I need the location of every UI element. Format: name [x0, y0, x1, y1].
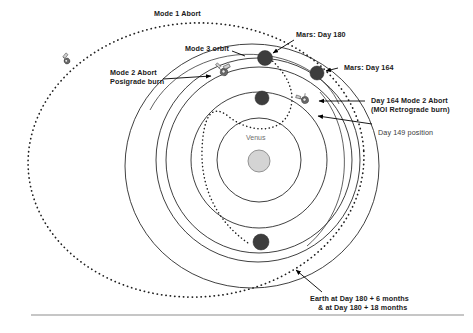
- label-mode1-abort: Mode 1 Abort: [154, 9, 201, 18]
- label-day164-mode2-line2: (MOI Retrograde burn): [371, 105, 450, 114]
- label-day149-position: Day 149 position: [378, 128, 433, 137]
- label-mars-day180: Mars: Day 180: [296, 30, 346, 39]
- leader-day149: [318, 116, 372, 124]
- trajectory-dotted-transfer: [202, 56, 292, 243]
- spacecraft-icon-mode1: [61, 52, 71, 64]
- planet-mars-day180: [258, 51, 273, 66]
- label-mars-day164: Mars: Day 164: [344, 63, 394, 72]
- leader-mode2-abort: [163, 76, 211, 79]
- sun-icon: [248, 150, 270, 172]
- diagram-canvas: [0, 0, 473, 333]
- label-mode2-abort-line2: Posigrade burn: [110, 77, 164, 86]
- label-mode2-abort-line1: Mode 2 Abort: [110, 68, 157, 77]
- label-earth-line1: Earth at Day 180 + 6 months: [310, 294, 409, 303]
- spacecraft-icon-mode2: [214, 61, 231, 76]
- label-day164-mode2-line1: Day 164 Mode 2 Abort: [371, 96, 448, 105]
- label-venus: Venus: [246, 134, 265, 141]
- spacecraft-icon-day164: [295, 93, 309, 105]
- trajectory-mode1-abort: [21, 14, 371, 305]
- label-earth-line2: & at Day 180 + 18 months: [318, 303, 407, 312]
- planet-day149: [255, 91, 269, 105]
- planet-earth-day180plus: [253, 234, 269, 250]
- leader-earth: [296, 270, 322, 292]
- label-mode3-orbit: Mode 3 orbit: [185, 44, 229, 53]
- trajectory-diagram: Mode 1 Abort Mode 3 orbit Mode 2 Abort P…: [0, 0, 473, 333]
- planet-mars-day164: [310, 66, 324, 80]
